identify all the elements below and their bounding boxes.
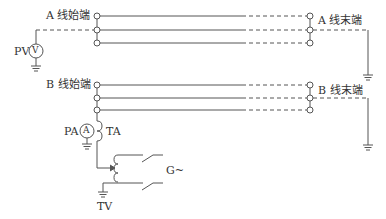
a-start-label: A 线始端 <box>46 10 90 21</box>
b-end-label: B 线末端 <box>318 85 363 96</box>
b-line-conductors <box>100 85 307 110</box>
voltage-regulator-circuit <box>97 155 143 197</box>
pa-label: PA <box>64 126 78 137</box>
b-start-label: B 线始端 <box>46 79 91 90</box>
circuit-svg <box>0 0 386 219</box>
current-transformer-circuit <box>80 113 102 168</box>
a-end-ground <box>313 30 373 80</box>
a-end-label: A 线末端 <box>318 15 362 26</box>
a-line-conductors <box>100 16 307 43</box>
ammeter-symbol: A <box>83 126 90 135</box>
voltmeter-symbol: V <box>32 46 39 55</box>
b-end-ground <box>313 98 373 150</box>
generator-label: G~ <box>166 165 184 176</box>
generator-switches <box>142 155 163 190</box>
circuit-diagram: A 线始端 A 线末端 B 线始端 B 线末端 PV V PA A TA TV … <box>0 0 386 219</box>
tv-label: TV <box>97 201 112 212</box>
pv-label: PV <box>14 46 29 57</box>
ta-label: TA <box>106 126 121 137</box>
